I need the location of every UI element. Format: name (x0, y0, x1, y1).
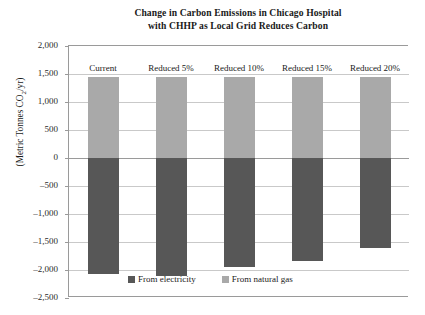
y-tick-mark-1500 (65, 74, 69, 75)
legend-item-natural-gas: From natural gas (222, 274, 293, 284)
category-label-reduced-15: Reduced 15% (282, 63, 332, 73)
y-tick-label--1000: –1,000 (12, 208, 58, 218)
legend-label-electricity: From electricity (138, 274, 196, 284)
chart-title-line-2: with CHHP as Local Grid Reduces Carbon (68, 19, 408, 32)
category-label-reduced-10: Reduced 10% (214, 63, 264, 73)
y-tick-mark-1000 (65, 102, 69, 103)
gridline--2000 (69, 270, 409, 271)
y-axis-tick-labels: 2,0001,5001,0005000–500–1,000–1,500–2,00… (14, 45, 64, 297)
bar-segment-electricity[interactable] (292, 158, 323, 261)
y-tick-label-1500: 1,500 (12, 68, 58, 78)
gridline-1500 (69, 74, 409, 75)
legend-label-natural-gas: From natural gas (232, 274, 293, 284)
bar-segment-electricity[interactable] (88, 158, 119, 274)
chart-legend: From electricity From natural gas (128, 274, 293, 284)
y-tick-label-1000: 1,000 (12, 96, 58, 106)
y-tick-label-0: 0 (12, 152, 58, 162)
bar-segment-natural-gas[interactable] (360, 77, 391, 158)
y-tick-label-2000: 2,000 (12, 40, 58, 50)
bar-segment-electricity[interactable] (360, 158, 391, 248)
chart-title: Change in Carbon Emissions in Chicago Ho… (68, 6, 408, 32)
legend-swatch-natural-gas-icon (222, 276, 229, 283)
category-label-reduced-20: Reduced 20% (350, 63, 400, 73)
y-tick-label--1500: –1,500 (12, 236, 58, 246)
bar-segment-electricity[interactable] (224, 158, 255, 267)
carbon-emissions-chart: Change in Carbon Emissions in Chicago Ho… (0, 0, 425, 315)
legend-item-electricity: From electricity (128, 274, 196, 284)
plot-area: CurrentReduced 5%Reduced 10%Reduced 15%R… (68, 45, 408, 297)
bar-segment-natural-gas[interactable] (88, 77, 119, 158)
bar-segment-electricity[interactable] (156, 158, 187, 276)
y-tick-mark--1000 (65, 214, 69, 215)
y-tick-mark--1500 (65, 242, 69, 243)
category-label-current: Current (89, 63, 117, 73)
bar-segment-natural-gas[interactable] (292, 77, 323, 158)
y-tick-mark-0 (65, 158, 69, 159)
y-tick-mark-500 (65, 130, 69, 131)
y-tick-mark--500 (65, 186, 69, 187)
y-tick-mark--2500 (65, 298, 69, 299)
bar-segment-natural-gas[interactable] (156, 77, 187, 158)
y-tick-mark-2000 (65, 46, 69, 47)
y-tick-label--2500: –2,500 (12, 292, 58, 302)
legend-swatch-electricity-icon (128, 276, 135, 283)
y-tick-label--500: –500 (12, 180, 58, 190)
y-tick-label--2000: –2,000 (12, 264, 58, 274)
y-tick-mark--2000 (65, 270, 69, 271)
category-label-reduced-5: Reduced 5% (148, 63, 194, 73)
chart-title-line-1: Change in Carbon Emissions in Chicago Ho… (68, 6, 408, 19)
y-tick-label-500: 500 (12, 124, 58, 134)
bar-segment-natural-gas[interactable] (224, 77, 255, 158)
